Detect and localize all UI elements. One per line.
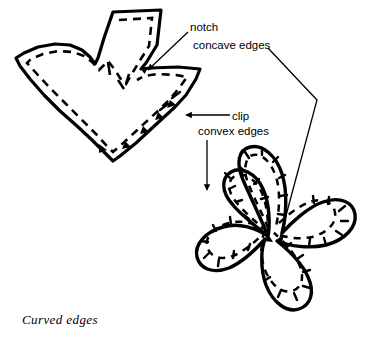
label-clip: clip [232, 111, 249, 123]
notched-leaf-pattern-piece [16, 10, 200, 161]
label-notch: notch [190, 22, 218, 34]
label-convex-edges: convex edges [198, 126, 269, 138]
figure-page: notch concave edges clip convex edges Cu… [0, 0, 374, 346]
leaf-outline [16, 10, 200, 161]
label-concave-edges: concave edges [193, 40, 270, 52]
curved-edges-diagram [0, 0, 374, 346]
figure-caption: Curved edges [22, 312, 98, 328]
five-petal-flower-pattern-piece [197, 147, 356, 310]
